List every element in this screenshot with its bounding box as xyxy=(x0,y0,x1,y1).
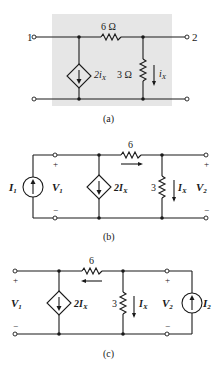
svg-text:V2: V2 xyxy=(162,297,173,311)
terminal-2-label: 2 xyxy=(192,31,198,43)
svg-text:V2: V2 xyxy=(196,181,207,195)
minus-left: − xyxy=(13,321,18,331)
svg-text:I1: I1 xyxy=(8,181,17,195)
caption-c: (c) xyxy=(103,348,114,360)
terminal-1 xyxy=(32,35,36,39)
series-resistor-label: 6 xyxy=(89,255,94,266)
resistor-6 xyxy=(121,152,141,158)
series-resistor-label: 6 Ω xyxy=(101,21,116,32)
svg-text:2IX: 2IX xyxy=(73,298,88,311)
resistor-6 xyxy=(82,268,102,274)
svg-text:V1: V1 xyxy=(11,297,22,311)
svg-text:2IX: 2IX xyxy=(113,182,128,195)
terminal-1-label: 1 xyxy=(27,31,33,43)
minus-right: − xyxy=(204,205,209,215)
circuit-figure: 1 2 6 Ω 3 Ω 2iX iX (a) xyxy=(0,0,223,366)
svg-text:I2: I2 xyxy=(202,297,211,311)
plus-right: + xyxy=(165,275,170,285)
minus-right: − xyxy=(165,321,170,331)
plus-right: + xyxy=(204,159,209,169)
minus-left: − xyxy=(53,205,58,215)
shunt-resistor-label: 3 xyxy=(112,298,117,309)
series-resistor-label: 6 xyxy=(128,139,133,150)
resistor-3 xyxy=(159,176,165,198)
panel-c: V1 V2 I2 + − + − 6 3 2IX IX (c) xyxy=(11,255,211,360)
shunt-resistor-label: 3 xyxy=(151,182,156,193)
plus-left: + xyxy=(53,159,58,169)
plus-left: + xyxy=(13,275,18,285)
svg-text:V1: V1 xyxy=(52,181,63,195)
caption-a: (a) xyxy=(103,113,114,125)
resistor-3 xyxy=(120,292,126,314)
panel-a: 1 2 6 Ω 3 Ω 2iX iX (a) xyxy=(27,14,198,125)
terminal-2 xyxy=(185,35,189,39)
panel-b: I1 V1 V2 + − + − 6 3 2IX IX (b) xyxy=(8,139,209,243)
svg-text:IX: IX xyxy=(177,182,187,195)
shunt-resistor-label: 3 Ω xyxy=(117,69,132,80)
caption-b: (b) xyxy=(103,231,115,243)
svg-text:IX: IX xyxy=(138,298,148,311)
